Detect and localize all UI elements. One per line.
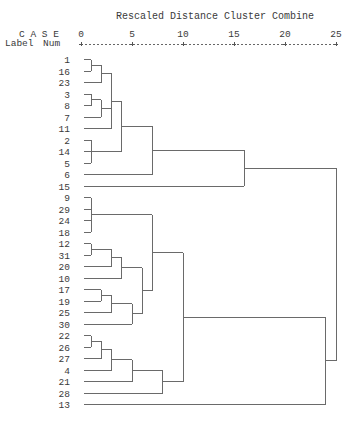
leaf-label: 30 [59,320,71,331]
leaf-label: 26 [59,343,71,354]
leaf-label: 24 [59,216,71,227]
label-column-header: Label [5,38,34,49]
leaf-label: 15 [59,182,71,193]
leaf-label: 25 [59,308,71,319]
tick-label: 20 [279,29,291,40]
leaf-label: 23 [59,78,71,89]
x-axis: 0510152025 [78,29,342,46]
tick-label: 15 [228,29,240,40]
leaf-label: 29 [59,205,71,216]
dendrogram-links [84,60,336,405]
leaf-label: 20 [59,262,71,273]
leaf-label: 12 [59,239,71,250]
leaf-label: 22 [59,331,71,342]
leaf-label: 28 [59,389,71,400]
leaf-label: 4 [64,366,70,377]
leaf-label: 6 [64,170,70,181]
leaf-label: 5 [64,159,70,170]
tick-label: 0 [78,29,84,40]
tick-label: 25 [330,29,342,40]
leaf-label: 2 [64,136,70,147]
leaf-label: 27 [59,354,70,365]
leaf-label: 17 [59,285,70,296]
leaf-label: 11 [59,124,71,135]
dendrogram-chart: Rescaled Distance Cluster Combine C A S … [0,0,354,426]
leaf-label: 21 [59,377,71,388]
leaf-label: 19 [59,297,71,308]
num-column-header: Num [43,38,60,49]
leaf-label: 16 [59,67,71,78]
leaf-label: 1 [64,55,70,66]
tick-label: 5 [129,29,135,40]
leaf-label: 7 [64,113,70,124]
leaf-label: 13 [59,400,71,411]
chart-title: Rescaled Distance Cluster Combine [116,11,314,22]
leaf-labels: 1162338711214561592924181231201017192530… [59,55,71,411]
leaf-label: 10 [59,274,71,285]
tick-label: 10 [177,29,189,40]
leaf-label: 9 [64,193,70,204]
leaf-label: 3 [64,90,70,101]
leaf-label: 8 [64,101,70,112]
leaf-label: 14 [59,147,71,158]
leaf-label: 31 [59,251,71,262]
leaf-label: 18 [59,228,71,239]
